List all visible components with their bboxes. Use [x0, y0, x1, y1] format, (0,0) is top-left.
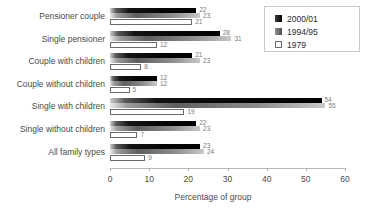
bar-value-label: 7: [140, 132, 144, 139]
x-axis-title: Percentage of group: [0, 192, 366, 202]
grey-square-icon: [275, 28, 282, 35]
bar-value-label: 23: [203, 58, 210, 65]
bar-value-label: 9: [148, 155, 152, 162]
bar-group: 23249: [110, 144, 345, 164]
bar-2: [110, 64, 141, 70]
legend-item: 1994/95: [275, 25, 359, 38]
bar-1: [110, 36, 231, 41]
bar-2: [110, 155, 145, 161]
bar-value-label: 31: [234, 36, 241, 43]
x-tick-label: 30: [223, 174, 232, 184]
x-tick-mark: [188, 168, 189, 171]
bar-2: [110, 19, 192, 25]
x-tick-mark: [110, 168, 111, 171]
bar-chart: 22232128311221238121255455192223723249 P…: [0, 0, 366, 210]
category-label: Couple without children: [0, 79, 105, 89]
bar-group: 12125: [110, 76, 345, 96]
category-label: Pensioner couple: [0, 11, 105, 21]
bar-group: 545519: [110, 98, 345, 118]
bar-2: [110, 87, 130, 93]
category-label: Single with children: [0, 101, 105, 111]
legend-item-label: 2000/01: [287, 14, 318, 24]
x-tick-mark: [228, 168, 229, 171]
white-square-icon: [275, 41, 282, 48]
bar-group: 21238: [110, 53, 345, 73]
x-tick-mark: [267, 168, 268, 171]
bar-1: [110, 149, 204, 154]
x-tick-mark: [149, 168, 150, 171]
legend: 2000/01 1994/95 1979: [264, 6, 360, 52]
bar-value-label: 8: [144, 64, 148, 71]
category-label: Single pensioner: [0, 34, 105, 44]
bar-value-label: 21: [195, 19, 202, 26]
cut-off-title: [0, 0, 366, 4]
bar-1: [110, 58, 200, 63]
bar-value-label: 55: [328, 103, 335, 110]
bar-1: [110, 126, 200, 131]
legend-item: 2000/01: [275, 12, 359, 25]
bar-1: [110, 13, 200, 18]
x-tick-label: 40: [262, 174, 271, 184]
category-label: Single without children: [0, 124, 105, 134]
bar-2: [110, 42, 157, 48]
bar-value-label: 23: [203, 126, 210, 133]
bar-value-label: 12: [160, 42, 167, 49]
x-tick-label: 0: [108, 174, 113, 184]
category-label: Couple with children: [0, 56, 105, 66]
bar-value-label: 24: [207, 149, 214, 156]
bar-1: [110, 103, 325, 108]
x-tick-label: 10: [144, 174, 153, 184]
bar-2: [110, 109, 184, 115]
bar-value-label: 23: [203, 13, 210, 20]
x-tick-mark: [306, 168, 307, 171]
bar-group: 22237: [110, 121, 345, 141]
bar-value-label: 19: [187, 109, 194, 116]
legend-item-label: 1994/95: [287, 27, 318, 37]
x-tick-label: 20: [184, 174, 193, 184]
x-tick-mark: [345, 168, 346, 171]
legend-item: 1979: [275, 38, 359, 51]
x-tick-label: 50: [301, 174, 310, 184]
bar-value-label: 5: [133, 87, 137, 94]
black-square-icon: [275, 15, 282, 22]
bar-value-label: 12: [160, 81, 167, 88]
bar-2: [110, 132, 137, 138]
category-label: All family types: [0, 147, 105, 157]
legend-item-label: 1979: [287, 40, 306, 50]
x-tick-label: 60: [340, 174, 349, 184]
